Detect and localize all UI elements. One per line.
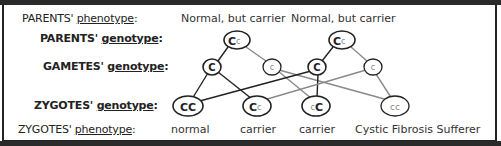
zygote-allele-2: C xyxy=(315,101,323,114)
parent-2-genotype-node: C c xyxy=(329,31,355,49)
zygote-3-node: c C xyxy=(302,96,330,116)
inheritance-diagram: C c C c C c C c C C C c c C c c xyxy=(0,0,501,146)
gamete-1-node: C xyxy=(203,59,221,75)
allele-dominant: C xyxy=(228,35,236,48)
allele-recessive: c xyxy=(341,37,345,46)
edge-p1-to-c xyxy=(246,47,266,61)
zygote-allele-2: C xyxy=(188,101,196,114)
gamete-allele: c xyxy=(371,63,375,72)
zygote-allele-2: c xyxy=(257,103,261,112)
edge-p1-to-C xyxy=(218,47,228,61)
zygote-1-node: C C xyxy=(173,96,203,116)
edge-p2-to-C xyxy=(322,47,333,61)
zygote-allele-1: C xyxy=(180,101,188,114)
parent-1-genotype-node: C c xyxy=(224,31,250,49)
zygote-4-node: c c xyxy=(381,96,409,116)
gamete-3-node: C xyxy=(308,59,326,75)
zygote-allele-1: C xyxy=(249,101,257,114)
edge-C3-to-cC xyxy=(317,74,318,98)
zygote-allele-2: c xyxy=(395,102,400,112)
edge-C1-to-CC xyxy=(192,73,208,99)
gamete-2-node: c xyxy=(263,59,281,75)
gamete-allele: C xyxy=(208,62,215,73)
gamete-zygote-edges xyxy=(192,70,392,102)
gamete-4-node: c xyxy=(364,59,382,75)
zygote-2-node: C c xyxy=(243,96,271,116)
edge-c4-to-cc xyxy=(376,74,392,99)
allele-dominant: C xyxy=(333,35,341,48)
allele-recessive: c xyxy=(236,37,240,46)
edge-p2-to-c xyxy=(351,47,367,61)
gamete-allele: C xyxy=(313,62,320,73)
gamete-allele: c xyxy=(270,63,274,72)
